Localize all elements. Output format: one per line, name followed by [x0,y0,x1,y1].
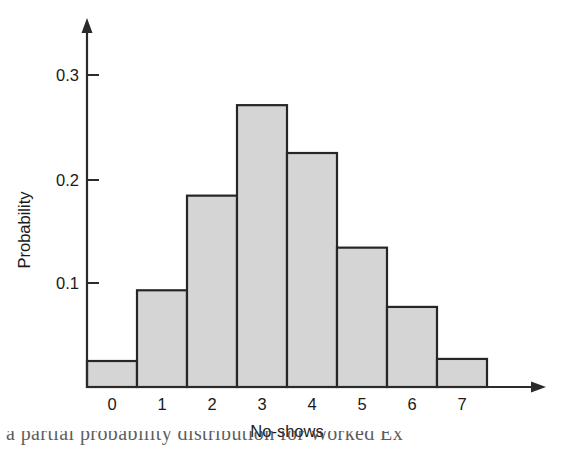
y-axis-title: Probability [15,191,33,269]
bar-5 [337,248,387,387]
x-tick-label-1: 1 [157,395,166,413]
x-tick-label-5: 5 [357,395,366,413]
x-tick-label-2: 2 [207,395,216,413]
x-tick-label-6: 6 [407,395,416,413]
bar-6 [387,307,437,387]
bar-1 [137,290,187,387]
x-tick-label-0: 0 [107,395,116,413]
y-tick-label-0.2: 0.2 [56,171,79,189]
bar-series [87,105,487,387]
bar-2 [187,196,237,387]
bar-7 [437,359,487,387]
x-axis-arrow-icon [531,382,546,393]
caption-strip: a partial probability distribution for W… [0,431,563,457]
y-tick-label-0.1: 0.1 [56,274,79,292]
bar-0 [87,361,137,387]
y-axis: 0.3 0.2 0.1 Probability [15,18,99,388]
bar-4 [287,153,337,387]
y-axis-arrow-icon [82,18,93,33]
figure-histogram-no-shows: 0.3 0.2 0.1 Probability 0 1 2 3 4 5 6 7 … [0,0,563,457]
x-tick-label-3: 3 [257,395,266,413]
bar-3 [237,105,287,387]
probability-distribution-chart: 0.3 0.2 0.1 Probability 0 1 2 3 4 5 6 7 … [0,0,563,457]
x-tick-label-4: 4 [307,395,316,413]
y-tick-label-0.3: 0.3 [56,66,79,84]
caption-text: a partial probability distribution for W… [6,431,562,445]
x-tick-label-7: 7 [457,395,466,413]
